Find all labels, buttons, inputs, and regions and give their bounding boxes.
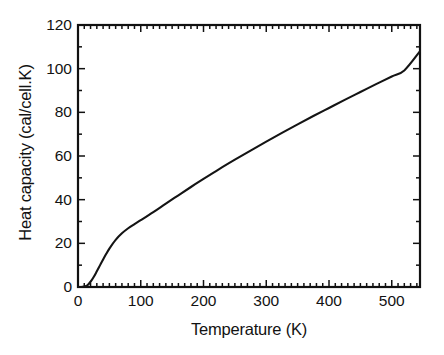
x-tick-label: 0 <box>51 292 105 310</box>
x-tick-label: 500 <box>365 292 419 310</box>
y-axis-label: Heat capacity (cal/cell.K) <box>16 23 35 283</box>
x-tick-label: 200 <box>177 292 231 310</box>
x-axis-label: Temperature (K) <box>78 320 420 339</box>
y-axis-label-wrap: Heat capacity (cal/cell.K) <box>8 25 42 287</box>
heat-capacity-chart: 020406080100120 0100200300400500 Heat ca… <box>0 0 444 355</box>
x-tick-label: 300 <box>239 292 293 310</box>
x-tick-label: 400 <box>302 292 356 310</box>
x-tick-label: 100 <box>114 292 168 310</box>
